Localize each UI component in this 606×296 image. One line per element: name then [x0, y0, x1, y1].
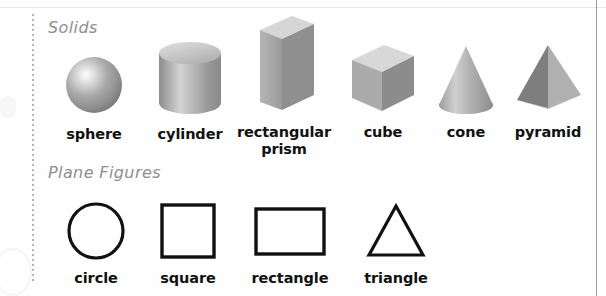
figure-cylinder[interactable]: cylinder	[140, 36, 240, 143]
figure-label-cylinder: cylinder	[140, 126, 240, 143]
cylinder-3d-icon	[140, 36, 240, 120]
rectangular-prism-3d-icon	[228, 12, 340, 118]
figure-label-rectangle: rectangle	[234, 270, 346, 287]
sphere-3d-icon	[46, 50, 142, 120]
figure-sphere[interactable]: sphere	[46, 50, 142, 143]
square-outline-icon	[140, 200, 236, 262]
rectangle-outline-icon	[234, 200, 346, 262]
figure-label-square: square	[140, 270, 236, 287]
scan-artifact-bottom-left	[0, 248, 32, 296]
figure-label-cube: cube	[334, 124, 432, 141]
figure-cube[interactable]: cube	[334, 40, 432, 141]
circle-outline-icon	[52, 200, 140, 262]
figure-label-pyramid: pyramid	[500, 124, 596, 141]
figure-rectangular-prism[interactable]: rectangular prism	[228, 12, 340, 158]
figure-cone[interactable]: cone	[424, 42, 508, 141]
page-left-dotted-rule	[32, 14, 34, 282]
cone-3d-icon	[424, 42, 508, 118]
figure-label-cone: cone	[424, 124, 508, 141]
page-top-rule	[0, 7, 606, 8]
triangle-outline-icon	[344, 200, 448, 262]
figure-pyramid[interactable]: pyramid	[500, 42, 596, 141]
figure-square[interactable]: square	[140, 200, 236, 287]
worksheet-page: Solids sphere	[0, 0, 606, 296]
figure-triangle[interactable]: triangle	[344, 200, 448, 287]
section-heading-solids: Solids	[48, 18, 98, 37]
page-right-rule	[596, 0, 597, 296]
figure-label-triangle: triangle	[344, 270, 448, 287]
figure-label-rectangular-prism: rectangular prism	[228, 124, 340, 158]
figure-label-sphere: sphere	[46, 126, 142, 143]
section-heading-plane-figures: Plane Figures	[48, 163, 161, 182]
scan-artifact-middle-left	[0, 96, 16, 118]
pyramid-3d-icon	[500, 42, 596, 118]
figure-circle[interactable]: circle	[52, 200, 140, 287]
figure-rectangle[interactable]: rectangle	[234, 200, 346, 287]
figure-label-circle: circle	[52, 270, 140, 287]
cube-3d-icon	[334, 40, 432, 118]
